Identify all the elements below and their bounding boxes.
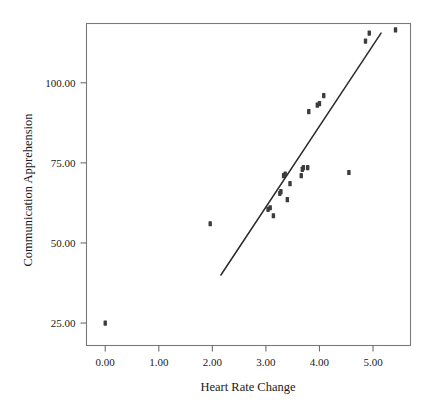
data-point-marker: [300, 173, 303, 178]
chart-canvas: 0.001.002.003.004.005.00 25.0050.0075.00…: [0, 0, 432, 404]
data-point-marker: [104, 320, 107, 325]
x-tick-label: 4.00: [310, 356, 330, 368]
data-point-marker: [288, 181, 291, 186]
x-tick-label: 1.00: [149, 356, 169, 368]
scatter-plot: 0.001.002.003.004.005.00 25.0050.0075.00…: [0, 0, 432, 404]
data-point-marker: [364, 39, 367, 44]
data-point-marker: [302, 165, 305, 170]
data-point-marker: [306, 165, 309, 170]
y-tick-label: 75.00: [51, 157, 76, 169]
data-point-marker: [272, 213, 275, 218]
y-tick-label: 50.00: [51, 237, 76, 249]
data-point-marker: [286, 197, 289, 202]
data-point-marker: [368, 31, 371, 36]
data-point-marker: [322, 93, 325, 98]
data-point-marker: [279, 189, 282, 194]
data-point-marker: [347, 170, 350, 175]
data-point-marker: [268, 205, 271, 210]
data-point-marker: [307, 109, 310, 114]
x-tick-label: 5.00: [363, 356, 383, 368]
data-point-marker: [283, 171, 286, 176]
x-tick-label: 2.00: [203, 356, 223, 368]
y-tick-label: 100.00: [45, 77, 76, 89]
y-tick-label: 25.00: [51, 317, 76, 329]
data-point-marker: [394, 27, 397, 32]
data-point-marker: [318, 101, 321, 106]
plot-background: [0, 0, 432, 404]
data-point-marker: [209, 221, 212, 226]
x-tick-label: 3.00: [256, 356, 276, 368]
y-axis-title: Communication Apprehension: [21, 113, 35, 267]
x-tick-label: 0.00: [96, 356, 116, 368]
x-axis-title: Heart Rate Change: [200, 380, 296, 394]
